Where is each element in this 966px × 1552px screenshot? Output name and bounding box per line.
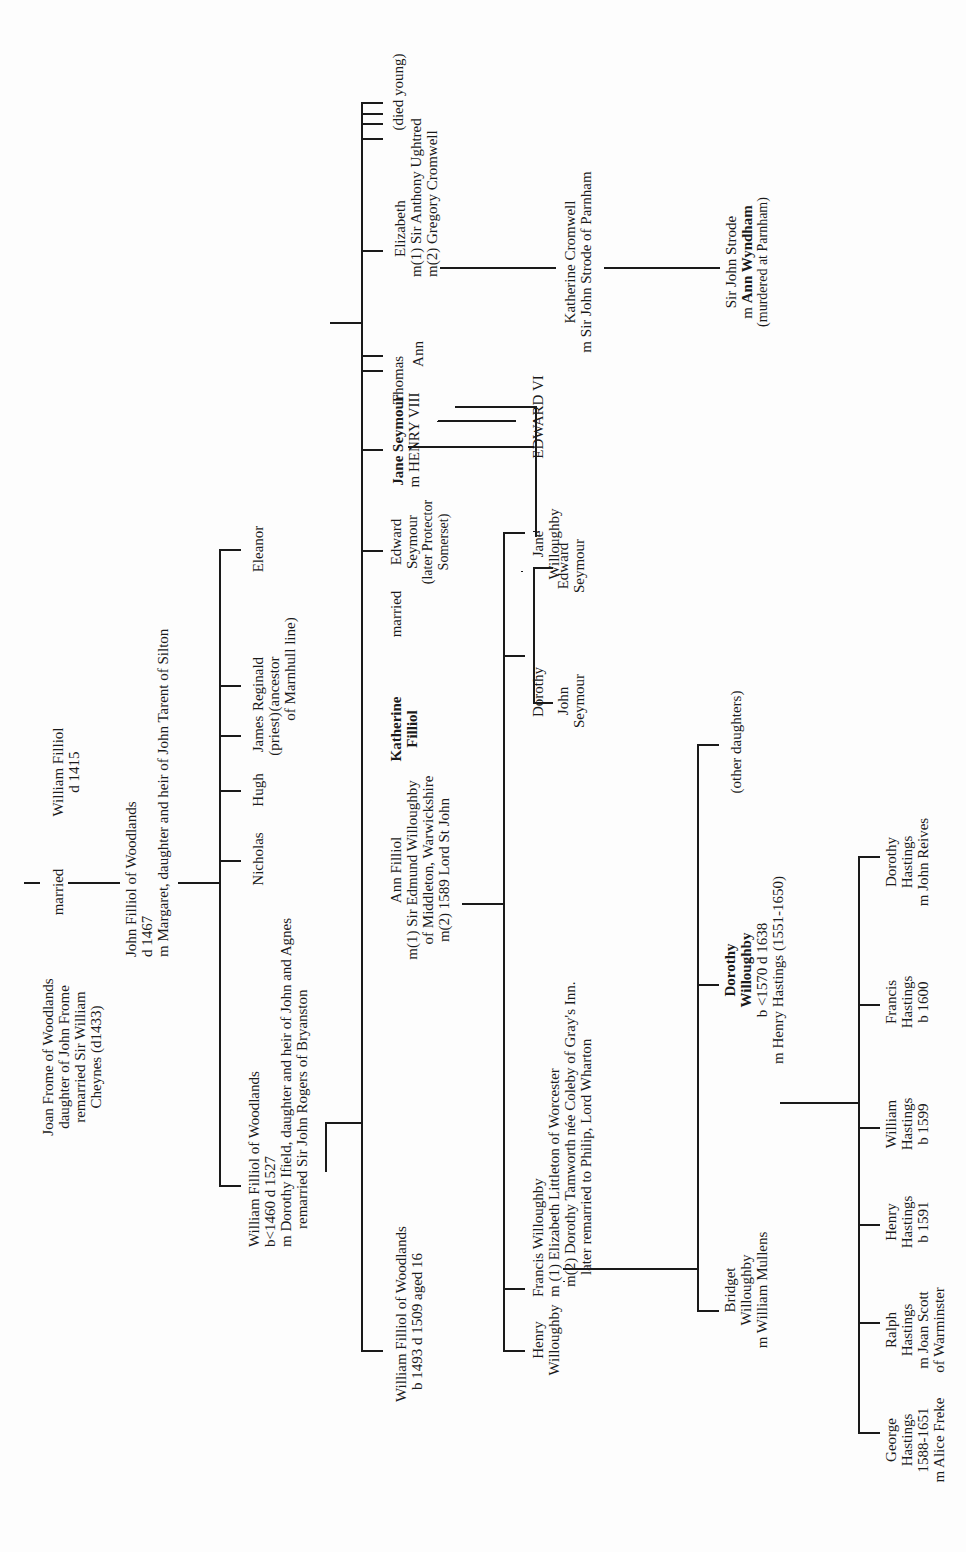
name: Willoughby bbox=[546, 1304, 562, 1375]
name: Filliol bbox=[404, 697, 420, 762]
person-john-seymour: John Seymour bbox=[555, 674, 587, 728]
note-died-young: (died young) bbox=[390, 53, 406, 130]
name: Francis Willoughby bbox=[530, 982, 546, 1297]
connector bbox=[219, 549, 241, 551]
detail: of Marnhull line) bbox=[282, 617, 298, 750]
name: William Filliol of Woodlands bbox=[246, 918, 262, 1247]
name: Ann Filliol bbox=[388, 776, 404, 965]
connector bbox=[68, 882, 120, 884]
married-label: married bbox=[388, 591, 404, 638]
person-jane-willoughby: Jane Willoughby bbox=[530, 508, 562, 579]
connector bbox=[178, 882, 220, 884]
connector bbox=[330, 322, 362, 324]
connector bbox=[24, 882, 40, 884]
name: Hastings bbox=[899, 1398, 915, 1483]
connector bbox=[503, 655, 525, 657]
person-katherine-filliol: Katherine Filliol bbox=[388, 697, 420, 762]
person-katherine-cromwell: Katherine Cromwell m Sir John Strode of … bbox=[562, 171, 594, 352]
person-edward-vi: EDWARD VI bbox=[530, 375, 546, 458]
person-dorothy-willoughby: Dorothy Willoughby b <1570 d 1638 m Henr… bbox=[722, 876, 786, 1064]
connector bbox=[563, 1281, 565, 1282]
person-eleanor: Eleanor bbox=[250, 526, 266, 573]
detail: m(2) Dorothy Tamworth née Coleby of Gray… bbox=[562, 982, 578, 1297]
name: Hastings bbox=[899, 976, 915, 1029]
person-ann-seymour: Ann bbox=[410, 341, 426, 367]
name: Hastings bbox=[899, 818, 915, 906]
person-dorothy-hastings: Dorothy Hastings m John Reives bbox=[883, 818, 931, 906]
connector bbox=[325, 1122, 362, 1124]
connector bbox=[858, 1322, 880, 1324]
detail: m Joan Scott bbox=[915, 1287, 931, 1373]
connector bbox=[858, 856, 880, 858]
name: Bridget bbox=[722, 1232, 738, 1349]
married-label: married bbox=[50, 869, 66, 916]
connector bbox=[361, 550, 383, 552]
detail: b 1600 bbox=[915, 976, 931, 1029]
name: William Filliol of Woodlands bbox=[393, 1226, 409, 1402]
detail: (ancestor bbox=[266, 617, 282, 750]
detail: 1588-1651 bbox=[915, 1398, 931, 1483]
person-francis-hastings: Francis Hastings b 1600 bbox=[883, 976, 931, 1029]
name: Edward bbox=[388, 500, 404, 584]
person-bridget-willoughby: Bridget Willoughby m William Mullens bbox=[722, 1232, 770, 1349]
name: Willoughby bbox=[738, 1232, 754, 1349]
detail: remarried Sir John Rogers of Bryanston bbox=[294, 918, 310, 1247]
name: Joan Frome of Woodlands bbox=[40, 978, 56, 1135]
name: Henry bbox=[530, 1304, 546, 1375]
detail: d 1467 bbox=[139, 629, 155, 957]
detail: m(1) Sir Edmund Willoughby bbox=[404, 776, 420, 965]
person-joan-frome: Joan Frome of Woodlands daughter of John… bbox=[40, 978, 104, 1135]
detail: m (1) Elizabeth Littleton of Worcester bbox=[546, 982, 562, 1297]
person-edward-seymour-protector: Edward Seymour (later Protector Somerset… bbox=[388, 500, 452, 584]
connector bbox=[219, 1185, 241, 1187]
person-reginald: Reginald (ancestor of Marnhull line) bbox=[250, 617, 298, 750]
sibling-bar-hastings bbox=[858, 856, 860, 1434]
connector bbox=[780, 1102, 860, 1104]
detail: b <1570 d 1638 bbox=[754, 876, 770, 1064]
connector bbox=[408, 446, 534, 448]
connector bbox=[361, 1350, 383, 1352]
person-henry-willoughby: Henry Willoughby bbox=[530, 1304, 562, 1375]
detail: b 1591 bbox=[915, 1196, 931, 1249]
person-william-hastings: William Hastings b 1599 bbox=[883, 1098, 931, 1151]
connector bbox=[219, 685, 241, 687]
person-nicholas: Nicholas bbox=[250, 832, 266, 885]
name: William Filliol bbox=[50, 728, 66, 817]
detail: d 1415 bbox=[66, 728, 82, 817]
connector bbox=[361, 370, 383, 372]
connector bbox=[604, 267, 720, 269]
name: Sir John Strode bbox=[723, 197, 739, 327]
person-francis-willoughby: Francis Willoughby m (1) Elizabeth Littl… bbox=[530, 982, 594, 1297]
family-tree-diagram: Joan Frome of Woodlands daughter of John… bbox=[0, 0, 966, 1552]
detail: m(1) Sir Anthony Ughtred bbox=[408, 118, 424, 277]
detail: m Henry Hastings (1551-1650) bbox=[770, 876, 786, 1064]
connector bbox=[697, 984, 719, 986]
name: George bbox=[883, 1398, 899, 1483]
connector bbox=[361, 355, 383, 357]
detail: b 1493 d 1509 aged 16 bbox=[409, 1226, 425, 1402]
person-thomas-seymour: Thomas bbox=[390, 356, 406, 404]
detail: m William Mullens bbox=[754, 1232, 770, 1349]
detail: later remarried to Philip, Lord Wharton bbox=[578, 982, 594, 1297]
detail: daughter of John Frome bbox=[56, 978, 72, 1135]
detail: (later Protector bbox=[420, 500, 436, 584]
connector bbox=[361, 138, 383, 140]
name: Reginald bbox=[250, 617, 266, 750]
detail: of Middleton, Warwickshire bbox=[420, 776, 436, 965]
connector bbox=[440, 267, 556, 269]
name: Seymour bbox=[571, 674, 587, 728]
connector bbox=[361, 102, 383, 104]
connector bbox=[503, 1350, 525, 1352]
detail: m bbox=[739, 303, 755, 318]
note-other-daughters: (other daughters) bbox=[728, 691, 744, 794]
person-elizabeth-seymour: Elizabeth m(1) Sir Anthony Ughtred m(2) … bbox=[392, 118, 440, 277]
person-ann-filliol: Ann Filliol m(1) Sir Edmund Willoughby o… bbox=[388, 776, 452, 965]
connector bbox=[503, 532, 525, 534]
detail: m Dorothy Ifield, daughter and heir of J… bbox=[278, 918, 294, 1247]
name: Dorothy bbox=[722, 876, 738, 1064]
name: Henry bbox=[883, 1196, 899, 1249]
connector bbox=[697, 744, 719, 746]
name: Hastings bbox=[899, 1098, 915, 1151]
detail: m Alice Freke bbox=[931, 1398, 947, 1483]
person-william-filliol-d1415: William Filliol d 1415 bbox=[50, 728, 82, 817]
